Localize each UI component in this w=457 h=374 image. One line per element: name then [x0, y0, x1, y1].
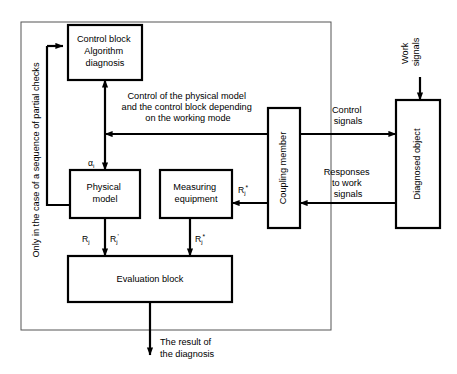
- control-signals-label: Control signals: [332, 105, 364, 126]
- diagnosed-object-label: Diagnosed object: [412, 128, 422, 199]
- coupling-member-label: Coupling member: [278, 132, 288, 205]
- rj-prime-signal-label: Rj': [110, 233, 119, 245]
- rj-signal-label: Rj: [82, 234, 90, 245]
- work-signals-label: Work signals: [400, 37, 421, 66]
- alpha-signal-label: αi: [88, 158, 94, 169]
- feedback-line-physical-to-control: [47, 46, 70, 205]
- control-note-text: Control of the physical model and the co…: [122, 91, 255, 123]
- rj-star-eval-signal-label: Rj*: [195, 233, 206, 245]
- diagram-canvas: Control block Algorithm diagnosis Physic…: [0, 0, 457, 374]
- evaluation-block-label: Evaluation block: [117, 274, 184, 284]
- result-label: The result of the diagnosis: [160, 337, 215, 359]
- partial-checks-label: Only in the case of a sequence of partia…: [31, 62, 41, 257]
- rj-star-coupling-signal-label: Rj*: [238, 184, 249, 196]
